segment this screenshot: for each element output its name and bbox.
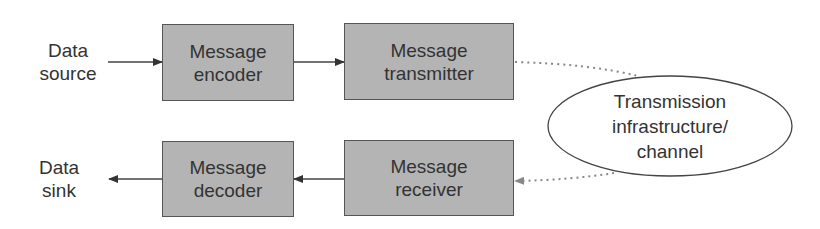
encoder-line1: Message: [189, 40, 266, 63]
channel-line2: infrastructure/: [560, 114, 780, 139]
data-source-label: Data source: [28, 39, 108, 85]
channel-line3: channel: [560, 139, 780, 164]
transmitter-line1: Message: [390, 39, 467, 62]
arrow-channel-to-receiver: [515, 173, 614, 181]
message-receiver-block: Message receiver: [344, 140, 514, 216]
message-encoder-block: Message encoder: [162, 24, 294, 101]
message-transmitter-block: Message transmitter: [344, 23, 514, 100]
receiver-line1: Message: [390, 155, 467, 178]
data-sink-label: Data sink: [24, 156, 94, 202]
data-source-line1: Data: [28, 39, 108, 62]
data-source-line2: source: [28, 62, 108, 85]
arrow-transmitter-to-channel: [515, 62, 638, 76]
receiver-line2: receiver: [395, 178, 463, 201]
diagram-canvas: Data source Data sink Message encoder Me…: [0, 0, 820, 229]
channel-line1: Transmission: [560, 89, 780, 114]
encoder-line2: encoder: [194, 63, 263, 86]
data-sink-line2: sink: [24, 179, 94, 202]
transmitter-line2: transmitter: [384, 62, 474, 85]
data-sink-line1: Data: [24, 156, 94, 179]
channel-label: Transmission infrastructure/ channel: [560, 89, 780, 164]
decoder-line1: Message: [189, 156, 266, 179]
message-decoder-block: Message decoder: [162, 141, 294, 217]
decoder-line2: decoder: [194, 179, 263, 202]
